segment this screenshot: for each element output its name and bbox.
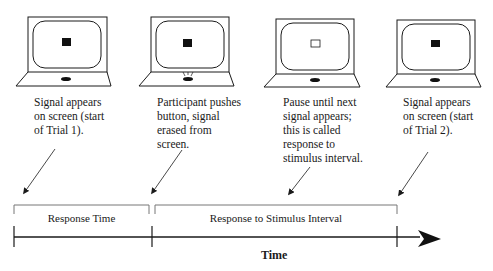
time-axis-arrowhead (418, 230, 441, 247)
pointer-arrow-3 (289, 167, 310, 194)
time-axis-label: Time (261, 248, 287, 263)
signal-square-empty (311, 40, 320, 47)
response-button-pressed (183, 77, 193, 81)
computer-icon-trial2-start (386, 20, 481, 87)
signal-square-filled (62, 38, 71, 46)
interval-label-response-time: Response Time (14, 212, 149, 224)
pointer-arrow-1 (24, 149, 55, 193)
caption-pause: Pause until next signal appears; this is… (283, 95, 363, 165)
caption-trial2-start: Signal appears on screen (start of Trial… (403, 95, 473, 137)
computer-icon-pause (264, 19, 360, 87)
response-button (430, 78, 440, 82)
response-button (61, 77, 71, 81)
caption-button-press: Participant pushes button, signal erased… (157, 95, 241, 151)
pointer-arrow-2 (152, 150, 182, 193)
signal-square-filled (183, 39, 192, 47)
signal-square-filled (431, 40, 440, 47)
response-button (310, 78, 320, 82)
computer-icon-button-press (139, 17, 234, 86)
interval-label-rsi: Response to Stimulus Interval (155, 212, 397, 224)
computer-icon-trial1-start (16, 17, 111, 86)
pointer-arrow-4 (399, 152, 428, 195)
caption-trial1-start: Signal appears on screen (start of Trial… (34, 95, 104, 137)
